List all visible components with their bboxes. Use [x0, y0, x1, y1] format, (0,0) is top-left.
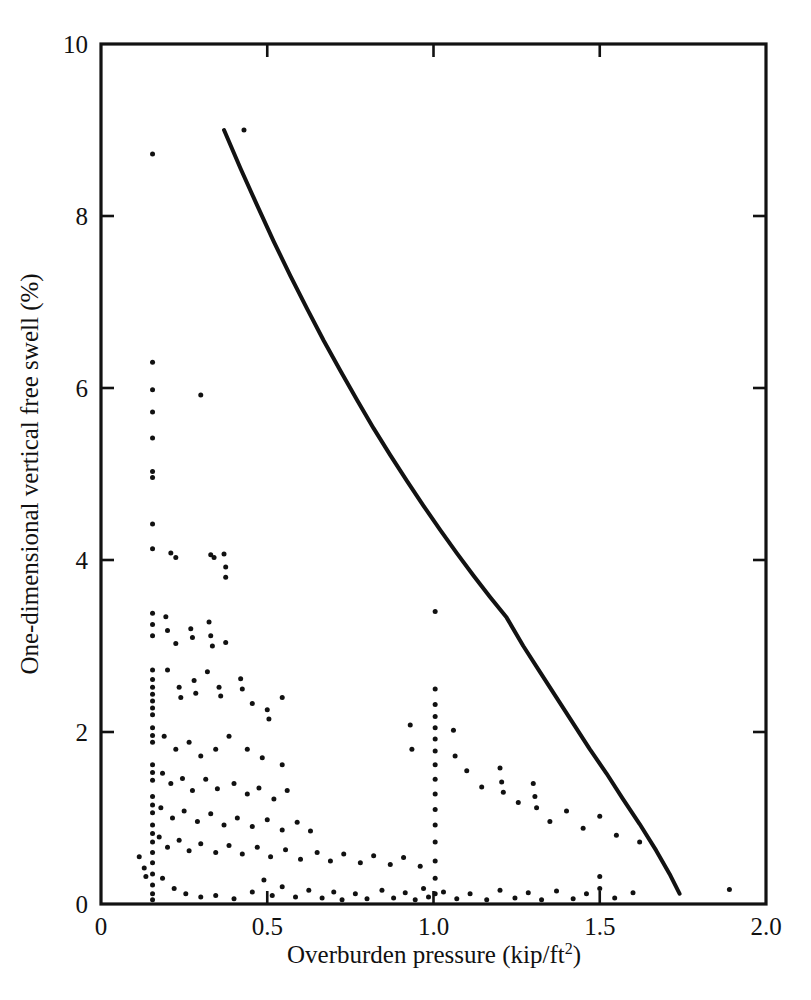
data-point — [308, 828, 313, 833]
x-tick-label-4: 2.0 — [750, 913, 781, 940]
data-point — [218, 693, 223, 698]
data-point — [534, 805, 539, 810]
data-point — [451, 728, 456, 733]
y-tick-label-1: 2 — [76, 719, 89, 746]
data-point — [637, 840, 642, 845]
data-point — [433, 714, 438, 719]
data-point — [150, 822, 155, 827]
data-point — [158, 805, 163, 810]
data-point — [341, 852, 346, 857]
data-point — [223, 564, 228, 569]
data-point — [150, 546, 155, 551]
data-point — [162, 734, 167, 739]
data-point — [441, 889, 446, 894]
x-tick-label-0: 0 — [95, 913, 108, 940]
data-point — [433, 840, 438, 845]
data-point — [150, 810, 155, 815]
data-point — [433, 687, 438, 692]
data-point — [409, 747, 414, 752]
data-point — [223, 575, 228, 580]
data-point — [547, 819, 552, 824]
data-point — [468, 891, 473, 896]
plot-frame — [101, 44, 766, 904]
data-point — [183, 891, 188, 896]
data-point — [208, 811, 213, 816]
data-point — [597, 886, 602, 891]
data-point — [170, 816, 175, 821]
data-point — [265, 817, 270, 822]
x-axis-tick-labels: 00.51.01.52.0 — [95, 913, 782, 940]
data-point — [564, 809, 569, 814]
data-point — [150, 840, 155, 845]
data-point — [433, 736, 438, 741]
data-point — [306, 888, 311, 893]
data-point — [143, 874, 148, 879]
data-point — [612, 895, 617, 900]
data-point — [464, 768, 469, 773]
data-point — [192, 678, 197, 683]
data-point — [208, 633, 213, 638]
plot-border — [101, 44, 766, 904]
data-point — [150, 152, 155, 157]
data-point — [210, 644, 215, 649]
data-point — [227, 734, 232, 739]
data-point — [150, 883, 155, 888]
data-point — [188, 626, 193, 631]
data-point — [212, 555, 217, 560]
x-tick-label-2: 1.0 — [418, 913, 449, 940]
data-point — [223, 640, 228, 645]
data-point — [227, 843, 232, 848]
data-point — [433, 702, 438, 707]
data-point — [532, 794, 537, 799]
data-point — [232, 781, 237, 786]
envelope-curve-layer — [224, 130, 680, 894]
data-point — [150, 633, 155, 638]
data-point — [150, 668, 155, 673]
data-point — [150, 521, 155, 526]
data-points-layer — [137, 128, 732, 903]
data-point — [353, 891, 358, 896]
data-point — [285, 788, 290, 793]
data-point — [150, 360, 155, 365]
data-point — [516, 800, 521, 805]
data-point — [433, 791, 438, 796]
data-point — [205, 669, 210, 674]
data-point — [328, 859, 333, 864]
data-point — [168, 781, 173, 786]
data-point — [142, 865, 147, 870]
data-point — [433, 762, 438, 767]
data-point — [340, 897, 345, 902]
data-point — [187, 740, 192, 745]
y-axis-tick-labels: 0246810 — [63, 31, 89, 918]
figure-container: 00.51.01.52.0 0246810 Overburden pressur… — [0, 0, 811, 1000]
data-point — [584, 891, 589, 896]
data-point — [379, 888, 384, 893]
x-tick-label-1: 0.5 — [252, 913, 283, 940]
data-point — [150, 733, 155, 738]
data-point — [597, 874, 602, 879]
data-point — [150, 871, 155, 876]
data-point — [403, 890, 408, 895]
data-point — [250, 824, 255, 829]
data-point — [137, 854, 142, 859]
data-point — [235, 816, 240, 821]
data-point — [727, 887, 732, 892]
data-point — [165, 668, 170, 673]
data-point — [150, 611, 155, 616]
data-point — [150, 831, 155, 836]
data-point — [295, 820, 300, 825]
data-point — [433, 876, 438, 881]
data-point — [498, 766, 503, 771]
data-point — [195, 819, 200, 824]
data-point — [190, 788, 195, 793]
data-point — [271, 797, 276, 802]
data-point — [331, 889, 336, 894]
data-point — [245, 791, 250, 796]
data-point — [484, 897, 489, 902]
data-point — [256, 785, 261, 790]
data-point — [260, 755, 265, 760]
x-axis-title: Overburden pressure (kip/ft2) — [287, 940, 581, 969]
data-point — [180, 776, 185, 781]
data-point — [177, 838, 182, 843]
data-point — [293, 895, 298, 900]
